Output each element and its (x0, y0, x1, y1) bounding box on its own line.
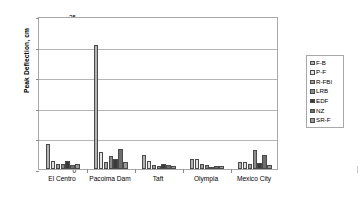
bar (104, 162, 108, 169)
bar (152, 165, 156, 169)
bar-group (183, 18, 231, 169)
legend-swatch-icon (310, 109, 315, 114)
bar (219, 166, 223, 169)
bar (248, 164, 252, 170)
bar (94, 45, 98, 169)
bar (262, 155, 266, 169)
legend-item[interactable]: NZ (310, 106, 341, 116)
bar (200, 164, 204, 169)
legend-swatch-icon (310, 61, 315, 66)
y-tick-mark (36, 171, 39, 172)
category-separator (135, 169, 136, 173)
bar (243, 162, 247, 169)
legend-label: NZ (316, 108, 324, 114)
bar-chart-figure: Peak Deflection, cm 0510152025 El Centro… (0, 0, 361, 197)
category-separator (231, 169, 232, 173)
bar (253, 150, 257, 169)
x-tick-label: El Centro (38, 175, 86, 182)
legend-label: EDF (316, 98, 328, 104)
bar-group (135, 18, 183, 169)
bar (238, 162, 242, 169)
bar (257, 163, 261, 169)
bar (171, 166, 175, 169)
bar (56, 164, 60, 169)
bar (209, 167, 213, 169)
legend-item[interactable]: SR-F (310, 116, 341, 126)
bar-group (39, 18, 87, 169)
x-tick-label: Pacoima Dam (86, 175, 134, 182)
bar (118, 149, 122, 169)
legend-swatch-icon (310, 70, 315, 75)
legend-swatch-icon (310, 118, 315, 123)
page-edge-artifact (357, 166, 358, 173)
bar-group (87, 18, 135, 169)
y-axis-title: Peak Deflection, cm (23, 1, 30, 121)
legend-swatch-icon (310, 89, 315, 94)
legend-item[interactable]: F-B (310, 58, 341, 68)
bar (46, 144, 50, 169)
bar (51, 161, 55, 169)
plot-area (38, 17, 278, 170)
legend-item[interactable]: LRB (310, 87, 341, 97)
x-tick-label: Olympia (182, 175, 230, 182)
legend-label: SR-F (316, 117, 330, 123)
bar (147, 161, 151, 169)
category-separator (183, 169, 184, 173)
bar (75, 164, 79, 169)
x-tick-label: Mexico City (230, 175, 278, 182)
x-tick-label: Taft (134, 175, 182, 182)
bar (109, 156, 113, 169)
legend-label: P-F (316, 69, 326, 75)
legend-swatch-icon (310, 80, 315, 85)
bar (267, 165, 271, 169)
bar (123, 162, 127, 169)
bar (214, 166, 218, 169)
bar-group (231, 18, 279, 169)
bar (166, 165, 170, 169)
bar (161, 164, 165, 169)
legend-label: F-B (316, 60, 326, 66)
bar (61, 164, 65, 170)
bar (142, 155, 146, 169)
legend-item[interactable]: EDF (310, 96, 341, 106)
legend-swatch-icon (310, 99, 315, 104)
bar (157, 166, 161, 169)
bar (190, 159, 194, 169)
legend-label: R-FBI (316, 79, 332, 85)
chart-legend: F-BP-FR-FBILRBEDFNZSR-F (306, 55, 344, 128)
bar (113, 159, 117, 169)
bar (99, 152, 103, 169)
legend-item[interactable]: R-FBI (310, 77, 341, 87)
legend-item[interactable]: P-F (310, 68, 341, 78)
bar (205, 165, 209, 169)
category-separator (87, 169, 88, 173)
bar (70, 165, 74, 169)
bar (195, 159, 199, 169)
bar (65, 161, 69, 169)
legend-label: LRB (316, 88, 328, 94)
